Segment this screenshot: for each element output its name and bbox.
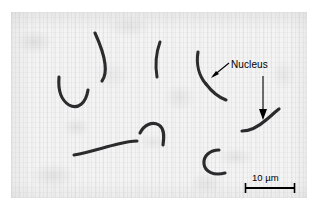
- scale-bar: [245, 183, 295, 193]
- micrograph-figure: Nucleus 10 µm: [0, 0, 316, 210]
- nucleus-arrow-diagonal: [211, 63, 229, 78]
- scale-bar-label: 10 µm: [252, 172, 279, 183]
- nucleus-label: Nucleus: [231, 59, 268, 71]
- nucleus-arrow-vertical: [259, 76, 267, 120]
